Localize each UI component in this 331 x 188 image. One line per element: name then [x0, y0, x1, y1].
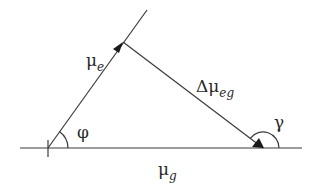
mu-e-label: μe: [86, 50, 104, 74]
delta-mu-eg-arrowhead-icon: [252, 138, 264, 148]
mu-g-label: μg: [158, 159, 177, 183]
dipole-vector-diagram: μe Δμeg μg φ γ: [0, 0, 331, 188]
delta-mu-eg-vector-line: [123, 42, 263, 148]
phi-angle-arc: [60, 132, 68, 148]
phi-label: φ: [77, 122, 89, 142]
mu-e-arrowhead-icon: [113, 42, 123, 53]
gamma-label: γ: [274, 112, 284, 132]
mu-e-vector-line: [48, 10, 147, 148]
delta-mu-eg-label: Δμeg: [196, 76, 234, 100]
